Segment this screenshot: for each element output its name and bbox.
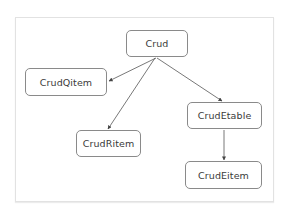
- edge-crud-qitem: [109, 58, 156, 81]
- edge-crud-etable: [157, 58, 222, 101]
- node-crud-qitem-label: CrudQitem: [40, 77, 92, 88]
- node-crud-eitem: CrudEitem: [185, 161, 262, 189]
- edge-crud-ritem: [108, 58, 155, 129]
- node-crud-eitem-label: CrudEitem: [198, 170, 249, 181]
- node-crud-ritem: CrudRitem: [76, 130, 141, 157]
- node-crud-etable: CrudEtable: [187, 102, 262, 129]
- node-crud-etable-label: CrudEtable: [198, 110, 252, 121]
- node-crud-label: Crud: [146, 38, 169, 49]
- node-crud-ritem-label: CrudRitem: [83, 138, 135, 149]
- node-crud: Crud: [126, 30, 188, 57]
- node-crud-qitem: CrudQitem: [25, 68, 107, 96]
